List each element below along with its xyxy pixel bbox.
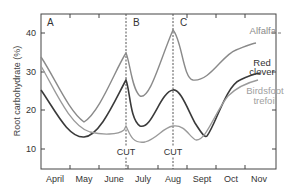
y-tick-10: 10 [26, 144, 36, 154]
x-label-aug: Aug [165, 174, 181, 184]
y-axis-title: Root carbohydrate (%) [12, 46, 22, 137]
y-tick-labels: 40 30 20 10 [26, 28, 36, 154]
y-tick-20: 20 [26, 105, 36, 115]
y-tick-40: 40 [26, 28, 36, 38]
legend-trefoil: trefoil [253, 95, 276, 106]
x-label-april: April [46, 174, 64, 184]
series-alfalfa [41, 30, 256, 122]
legend-alfalfa: Alfalfa [250, 25, 277, 36]
region-b-label: B [133, 17, 140, 28]
x-label-sept: Sept [193, 174, 212, 184]
region-a-label: A [47, 17, 54, 28]
x-label-may: May [75, 174, 93, 184]
y-axis-ticks [41, 33, 276, 149]
x-label-oct: Oct [224, 174, 239, 184]
y-tick-30: 30 [26, 67, 36, 77]
x-axis-ticks [70, 14, 245, 169]
x-label-july: July [135, 174, 152, 184]
x-tick-labels: April May June July Aug Sept Oct Nov [46, 174, 268, 184]
x-label-nov: Nov [251, 174, 268, 184]
region-c-label: C [180, 17, 187, 28]
plot-frame [41, 14, 276, 169]
cut-label-1: CUT [117, 147, 136, 157]
legend-clover: clover [249, 66, 274, 77]
cut-label-2: CUT [164, 147, 183, 157]
series-birdsfoot-trefoil [41, 66, 258, 142]
root-carbohydrate-chart: 40 30 20 10 Root carbohydrate (%) April … [0, 0, 292, 194]
series-red-clover [41, 73, 260, 137]
x-label-june: June [104, 174, 124, 184]
